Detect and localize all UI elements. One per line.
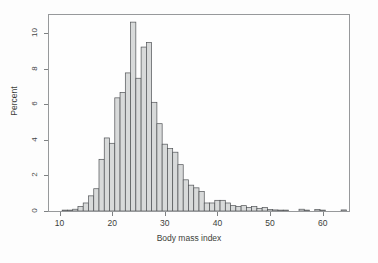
- histogram-bar: [210, 203, 215, 211]
- histogram-bars: [49, 15, 349, 211]
- x-axis-title: Body mass index: [0, 233, 378, 243]
- histogram-bar: [152, 102, 157, 211]
- histogram-bar: [220, 200, 225, 211]
- histogram-bar: [136, 78, 141, 211]
- x-tick-mark: [323, 212, 324, 216]
- histogram-bar: [246, 207, 251, 211]
- histogram-bar: [204, 203, 209, 211]
- y-tick-label: 10: [30, 25, 39, 39]
- x-tick-label: 40: [205, 218, 229, 228]
- histogram-bar: [283, 210, 288, 211]
- x-tick-mark: [112, 212, 113, 216]
- histogram-bar: [178, 165, 183, 211]
- histogram-bar: [231, 206, 236, 211]
- histogram-bar: [188, 185, 193, 211]
- y-tick-label: 6: [30, 97, 39, 111]
- histogram-bar: [167, 149, 172, 211]
- x-tick-mark: [165, 212, 166, 216]
- histogram-bar: [104, 138, 109, 211]
- histogram-bar: [131, 22, 136, 211]
- histogram-bar: [341, 210, 346, 211]
- y-tick-label: 8: [30, 61, 39, 75]
- histogram-bar: [262, 207, 267, 211]
- histogram-bar: [62, 210, 67, 211]
- histogram-bar: [315, 210, 320, 211]
- x-tick-mark: [270, 212, 271, 216]
- histogram-bar: [257, 208, 262, 211]
- x-tick-label: 60: [311, 218, 335, 228]
- histogram-bar: [78, 207, 83, 211]
- histogram-bar: [67, 210, 72, 211]
- histogram-figure: Percent 0246810 102030405060 Body mass i…: [0, 0, 378, 263]
- plot-area: [49, 15, 349, 211]
- histogram-bar: [320, 210, 325, 211]
- x-tick-mark: [60, 212, 61, 216]
- histogram-bar: [73, 209, 78, 211]
- histogram-bar: [267, 210, 272, 211]
- x-tick-label: 10: [48, 218, 72, 228]
- y-tick-label: 4: [30, 132, 39, 146]
- histogram-bar: [141, 47, 146, 211]
- x-tick-label: 20: [100, 218, 124, 228]
- histogram-bar: [194, 188, 199, 211]
- histogram-bar: [88, 196, 93, 211]
- histogram-bar: [215, 200, 220, 211]
- histogram-bar: [115, 98, 120, 211]
- histogram-bar: [278, 210, 283, 211]
- plot-frame: [48, 14, 350, 212]
- x-tick-mark: [217, 212, 218, 216]
- x-axis: 102030405060 Body mass index: [0, 212, 378, 263]
- histogram-bar: [236, 207, 241, 211]
- histogram-bar: [304, 210, 309, 211]
- histogram-bar: [94, 189, 99, 211]
- histogram-bar: [273, 210, 278, 211]
- histogram-bar: [120, 93, 125, 211]
- histogram-bar: [183, 180, 188, 211]
- histogram-bar: [83, 203, 88, 211]
- x-tick-label: 50: [258, 218, 282, 228]
- histogram-bar: [299, 209, 304, 211]
- histogram-bar: [173, 152, 178, 211]
- x-tick-label: 30: [153, 218, 177, 228]
- histogram-bar: [146, 43, 151, 211]
- histogram-bar: [252, 207, 257, 211]
- histogram-bar: [241, 206, 246, 211]
- histogram-bar: [162, 144, 167, 211]
- histogram-bar: [125, 73, 130, 211]
- histogram-bar: [157, 124, 162, 211]
- histogram-bar: [225, 203, 230, 211]
- histogram-bar: [110, 143, 115, 211]
- y-axis-title: Percent: [9, 71, 19, 131]
- histogram-bar: [199, 191, 204, 211]
- y-tick-label: 2: [30, 168, 39, 182]
- histogram-bar: [99, 159, 104, 211]
